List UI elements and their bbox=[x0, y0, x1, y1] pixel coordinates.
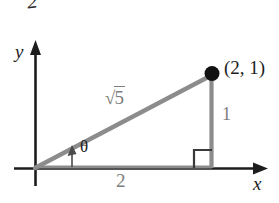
right-angle-marker-icon bbox=[194, 150, 212, 168]
hypotenuse-length-label: √5 bbox=[105, 88, 125, 107]
radicand-value: 5 bbox=[114, 86, 125, 108]
horizontal-leg-length-label: 2 bbox=[116, 171, 126, 190]
triangle-figure: 2 y x (2, 1) √5 1 2 θ bbox=[0, 0, 279, 203]
point-coordinate-label: (2, 1) bbox=[224, 58, 265, 77]
diagram-canvas bbox=[0, 0, 279, 203]
y-axis-arrowhead bbox=[30, 40, 41, 55]
x-axis-label: x bbox=[253, 174, 261, 193]
data-point-marker bbox=[205, 66, 220, 81]
vertical-leg-length-label: 1 bbox=[222, 105, 231, 123]
stray-glyph: 2 bbox=[26, 0, 39, 12]
y-axis-label: y bbox=[15, 42, 23, 61]
angle-theta-label: θ bbox=[80, 138, 88, 155]
